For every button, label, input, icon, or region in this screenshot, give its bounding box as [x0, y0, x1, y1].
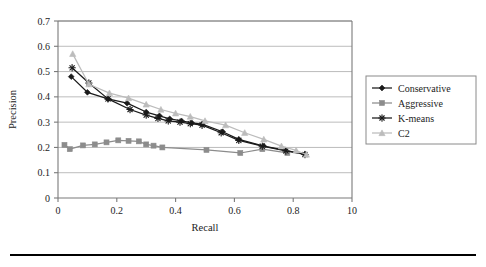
data-point-asterisk	[165, 118, 171, 124]
data-point-square	[126, 138, 131, 143]
data-point-asterisk	[218, 130, 224, 136]
data-point-asterisk	[127, 106, 133, 112]
y-tick-label: 0	[45, 193, 50, 204]
data-point-square	[160, 145, 165, 150]
data-point-asterisk	[379, 115, 385, 121]
plot-frame	[58, 21, 352, 198]
data-point-diamond	[124, 100, 130, 106]
data-point-square	[144, 142, 149, 147]
data-point-asterisk	[177, 119, 183, 125]
data-point-square	[204, 147, 209, 152]
data-point-square	[380, 101, 385, 106]
y-tick-label: 0.6	[38, 41, 51, 52]
x-tick-label: 0	[56, 205, 61, 216]
x-axis-title: Recall	[192, 222, 219, 233]
figure-container: 00.20.40.60.810 00.10.20.30.40.50.60.7 R…	[0, 0, 486, 267]
bottom-horizontal-rule	[10, 254, 476, 256]
data-point-square	[92, 142, 97, 147]
legend-label: Conservative	[398, 83, 451, 94]
data-point-triangle	[106, 90, 112, 96]
data-point-asterisk	[155, 115, 161, 121]
y-tick-label: 0.2	[38, 142, 51, 153]
y-tick-labels: 00.10.20.30.40.50.60.7	[38, 16, 51, 204]
data-point-square	[62, 142, 67, 147]
data-point-asterisk	[143, 112, 149, 118]
y-tick-label: 0.5	[38, 66, 51, 77]
data-point-asterisk	[187, 120, 193, 126]
y-axis-title: Precision	[7, 89, 18, 129]
x-tick-label: 0.2	[111, 205, 124, 216]
x-tick-label: 0.4	[169, 205, 182, 216]
x-tick-label: 10	[347, 205, 357, 216]
data-point-square	[80, 143, 85, 148]
legend-label: K-means	[398, 113, 434, 124]
x-tick-labels: 00.20.40.60.810	[56, 205, 358, 216]
series-line	[64, 140, 287, 153]
data-point-asterisk	[236, 137, 242, 143]
data-point-square	[238, 150, 243, 155]
data-point-asterisk	[69, 65, 75, 71]
y-tick-label: 0.1	[38, 167, 51, 178]
x-tick-label: 0.6	[228, 205, 241, 216]
precision-recall-chart: 00.20.40.60.810 00.10.20.30.40.50.60.7 R…	[0, 0, 486, 240]
data-point-square	[104, 140, 109, 145]
series-aggressive	[62, 138, 290, 156]
chart-area: 00.20.40.60.810 00.10.20.30.40.50.60.7 R…	[0, 0, 486, 240]
legend-label: Aggressive	[398, 98, 444, 109]
x-tick-label: 0.8	[287, 205, 300, 216]
chart-legend: ConservativeAggressiveK-meansC2	[366, 76, 476, 144]
data-point-triangle	[70, 51, 76, 57]
data-point-square	[116, 138, 121, 143]
data-point-asterisk	[105, 96, 111, 102]
legend-label: C2	[398, 128, 410, 139]
series-line	[73, 54, 307, 155]
data-point-square	[151, 143, 156, 148]
series-layer	[62, 51, 310, 158]
y-tick-label: 0.7	[38, 16, 51, 27]
y-tick-label: 0.3	[38, 117, 51, 128]
tick-marks	[54, 21, 352, 202]
data-point-square	[67, 147, 72, 152]
data-point-square	[136, 139, 141, 144]
data-point-asterisk	[259, 143, 265, 149]
y-tick-label: 0.4	[38, 91, 51, 102]
